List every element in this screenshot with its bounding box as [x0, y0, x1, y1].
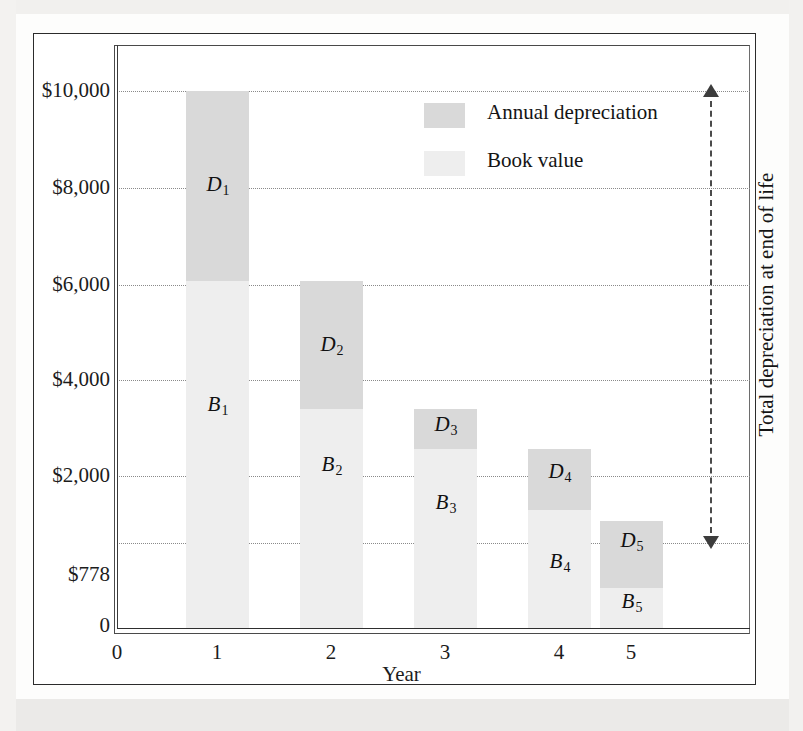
scanned-page: $10,000 $8,000 $6,000 $4,000 $2,000 $778…	[0, 0, 803, 731]
scan-edge-top	[0, 0, 803, 14]
scan-edge-right	[789, 0, 803, 731]
scan-edge-left	[0, 0, 16, 731]
total-depreciation-annotation-label: Total depreciation at end of life	[754, 125, 779, 485]
scan-edge-bottom	[0, 699, 803, 731]
plot-area-border	[114, 45, 750, 634]
